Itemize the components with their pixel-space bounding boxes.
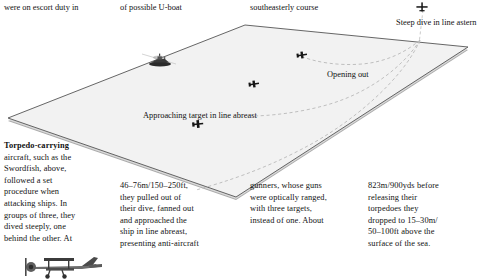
top-text-column-3: southeasterly course <box>250 2 318 14</box>
body-column-3-line-3: instead of one. About <box>250 215 368 227</box>
body-column-1: Torpedo-carrying aircraft, such as the S… <box>4 140 116 244</box>
body-column-1-line-2: followed a set <box>4 175 116 187</box>
body-column-1-line-6: dived steeply, one <box>4 221 116 233</box>
body-column-1-line-4: attacking ships. In <box>4 198 116 210</box>
body-column-3-line-0: gunners, whose guns <box>250 180 368 192</box>
label-opening-out: Opening out <box>327 70 369 80</box>
body-column-1-line-5: groups of three, they <box>4 210 116 222</box>
body-column-4-line-0: 823m/900yds before <box>368 180 494 192</box>
body-column-1-lead: Torpedo-carrying <box>4 140 116 152</box>
body-column-3-line-2: with three targets, <box>250 203 368 215</box>
body-column-2-line-0: 46–76m/150–250ft, <box>120 180 240 192</box>
body-column-4-line-4: 50–100ft above the <box>368 226 494 238</box>
page-root: Steep dive in line astern Opening out Ap… <box>0 0 499 279</box>
swordfish-biplane-illustration <box>22 252 108 279</box>
body-column-4-line-5: surface of the sea. <box>368 238 494 250</box>
aircraft-plan-icon <box>248 80 259 88</box>
warship-icon <box>149 54 171 67</box>
body-column-4-line-2: torpedoes they <box>368 203 494 215</box>
body-column-1-line-1: Swordfish, above, <box>4 163 116 175</box>
body-column-2-line-3: and approached the <box>120 215 240 227</box>
body-column-4-line-1: releasing their <box>368 192 494 204</box>
top-text-column-2: of possible U-boat <box>120 2 182 14</box>
body-column-2-line-2: their dive, fanned out <box>120 203 240 215</box>
body-column-2-line-5: presenting anti-aircraft <box>120 238 240 250</box>
body-column-2: 46–76m/150–250ft, they pulled out of the… <box>120 180 240 250</box>
body-column-1-line-3: procedure when <box>4 186 116 198</box>
body-column-4: 823m/900yds before releasing their torpe… <box>368 180 494 250</box>
body-column-4-line-3: dropped to 15–30m/ <box>368 215 494 227</box>
body-column-3: gunners, whose guns were optically range… <box>250 180 368 226</box>
aircraft-head-on-icon <box>416 2 427 11</box>
body-column-2-line-1: they pulled out of <box>120 192 240 204</box>
body-column-3-line-1: were optically ranged, <box>250 192 368 204</box>
flight-track-3 <box>303 40 420 65</box>
aircraft-plan-icon <box>296 51 307 59</box>
body-column-1-line-0: aircraft, such as the <box>4 152 116 164</box>
ship-wake <box>142 54 176 64</box>
label-steep-dive: Steep dive in line astern <box>396 18 476 28</box>
label-approaching: Approaching target in line abreast <box>143 111 257 121</box>
body-column-1-line-7: behind the other. At <box>4 233 116 245</box>
body-column-2-line-4: ship in line abreast, <box>120 226 240 238</box>
top-text-column-1: were on escort duty in <box>4 2 78 14</box>
